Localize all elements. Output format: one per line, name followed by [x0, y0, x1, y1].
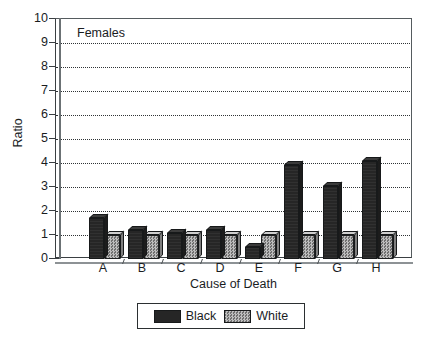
bar-front-face — [362, 161, 377, 259]
y-axis-line — [59, 18, 61, 259]
bar-front-face — [89, 218, 104, 259]
bar-black-f — [284, 165, 299, 259]
bar-black-a — [89, 218, 104, 259]
bar-black-g — [323, 186, 338, 259]
legend-swatch-white-icon — [224, 310, 251, 323]
y-axis-tick-label: 8 — [4, 60, 48, 72]
x-axis-label-a: A — [85, 261, 121, 275]
gridline — [56, 91, 410, 92]
y-axis-tick-label-wrap: 8 — [0, 60, 48, 72]
bar-front-face — [245, 247, 260, 259]
y-axis-tick-label: 10 — [4, 12, 48, 24]
y-axis-tick-label: 0 — [4, 252, 48, 264]
gridline — [56, 43, 410, 44]
y-axis-tick-label-wrap: 0 — [0, 252, 48, 264]
y-axis-tick-label-wrap: 6 — [0, 108, 48, 120]
x-axis-label-g: G — [319, 261, 355, 275]
bar-black-e — [245, 247, 260, 259]
gridline — [56, 163, 410, 164]
x-axis-label-h: H — [358, 261, 394, 275]
y-axis-tick-label-wrap: 9 — [0, 36, 48, 48]
y-axis-tick-label: 5 — [4, 132, 48, 144]
y-axis-tick-label-wrap: 1 — [0, 228, 48, 240]
x-axis-label-e: E — [241, 261, 277, 275]
x-axis-label-d: D — [202, 261, 238, 275]
plot-area: Females — [55, 18, 412, 258]
bar-side-face — [338, 181, 342, 259]
bar-front-face — [128, 230, 143, 259]
bar-black-h — [362, 161, 377, 259]
chart-figure: Ratio 012345678910 Females ABCDEFGH Caus… — [0, 0, 443, 350]
gridline — [56, 115, 410, 116]
legend-entry-black: Black — [154, 309, 217, 323]
bar-side-face — [143, 226, 147, 259]
y-axis-tick-label: 2 — [4, 204, 48, 216]
gridline — [56, 139, 410, 140]
chart-legend: Black White — [137, 303, 305, 329]
legend-label-white: White — [256, 309, 288, 323]
y-axis-tick — [49, 258, 59, 259]
x-axis-label-f: F — [280, 261, 316, 275]
plot-annotation: Females — [77, 26, 125, 40]
bar-black-c — [167, 233, 182, 259]
y-axis-tick-label: 3 — [4, 180, 48, 192]
y-axis-tick-label: 4 — [4, 156, 48, 168]
x-axis-label-b: B — [124, 261, 160, 275]
y-axis-tick-label: 6 — [4, 108, 48, 120]
legend-label-black: Black — [186, 309, 217, 323]
y-axis-tick-label-wrap: 5 — [0, 132, 48, 144]
x-axis-title: Cause of Death — [55, 277, 412, 291]
bar-side-face — [299, 161, 303, 259]
y-axis-tick-label-wrap: 4 — [0, 156, 48, 168]
bar-front-face — [284, 165, 299, 259]
bar-front-face — [206, 230, 221, 259]
y-axis-tick-label-wrap: 3 — [0, 180, 48, 192]
bar-side-face — [377, 156, 381, 259]
legend-swatch-black-icon — [154, 310, 181, 323]
bar-black-b — [128, 230, 143, 259]
gridline — [56, 187, 410, 188]
y-axis-tick-label-wrap: 7 — [0, 84, 48, 96]
y-axis-tick-label: 7 — [4, 84, 48, 96]
bar-front-face — [167, 233, 182, 259]
legend-entry-white: White — [224, 309, 288, 323]
y-axis-tick-label: 9 — [4, 36, 48, 48]
y-axis-tick-label-wrap: 10 — [0, 12, 48, 24]
bar-front-face — [323, 186, 338, 259]
bar-side-face — [221, 226, 225, 259]
x-axis-label-c: C — [163, 261, 199, 275]
bar-black-d — [206, 230, 221, 259]
gridline — [56, 67, 410, 68]
y-axis-tick-label-wrap: 2 — [0, 204, 48, 216]
gridline — [56, 211, 410, 212]
y-axis-tick-label: 1 — [4, 228, 48, 240]
bar-side-face — [104, 214, 108, 259]
